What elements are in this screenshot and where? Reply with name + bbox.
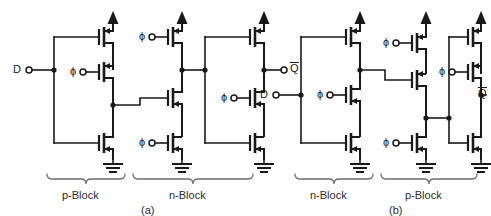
p2b-drain	[417, 49, 426, 74]
label-phi-a-4: ϕ	[221, 92, 227, 102]
p1b-drain	[351, 43, 360, 70]
p2a-drain	[104, 78, 113, 105]
phi-terminal-n3b	[393, 140, 399, 146]
n1b-source	[351, 101, 360, 137]
phi-terminal-p2a	[80, 69, 86, 75]
brace-nblock-a	[133, 174, 253, 184]
qbar-overline-a: Q	[290, 62, 299, 74]
p3b-drain	[417, 86, 426, 118]
figure-container: D Q ϕ ϕ ϕ ϕ p-Block n-Block (a) D Q ϕ ϕ …	[0, 0, 491, 216]
qbar-terminal-a	[281, 67, 287, 73]
n1b-drain	[351, 70, 360, 89]
p4a-drain	[255, 43, 264, 70]
wire-x-to-n-stack-a	[113, 98, 168, 105]
schematic-svg	[0, 0, 491, 216]
phi-terminal-p3a	[149, 34, 155, 40]
caption-panel-b: (b)	[389, 205, 402, 215]
n4a-source	[255, 104, 264, 137]
brace-pblock-b	[381, 174, 477, 184]
label-block-left-b: n-Block	[310, 190, 347, 200]
panel-b-circuit	[273, 11, 491, 184]
label-phi-b-2: ϕ	[383, 37, 389, 47]
brace-nblock-b	[295, 174, 373, 184]
phi-terminal-n1b	[327, 92, 333, 98]
n5b-drain	[473, 95, 481, 137]
label-phi-b-1: ϕ	[317, 89, 323, 99]
label-input-d-b: D	[260, 89, 268, 99]
panel-a-circuit	[26, 11, 287, 184]
n1a-drain	[104, 105, 113, 137]
n3b-drain	[417, 118, 426, 137]
label-phi-a-1: ϕ	[70, 66, 76, 76]
d-terminal-a	[26, 67, 32, 73]
label-block-left-a: p-Block	[62, 190, 99, 200]
d-terminal-b	[273, 92, 279, 98]
label-output-qbar-a: Q	[290, 62, 299, 74]
label-block-right-a: n-Block	[169, 190, 206, 200]
label-output-qbar-b: Q	[478, 87, 487, 99]
n2a-drain	[173, 70, 182, 92]
phi-terminal-n4a	[231, 95, 237, 101]
label-block-right-b: p-Block	[405, 190, 442, 200]
label-phi-a-3: ϕ	[139, 137, 145, 147]
label-phi-a-2: ϕ	[139, 31, 145, 41]
qbar-overline-b: Q	[478, 87, 487, 99]
phi-terminal-p2b	[393, 40, 399, 46]
label-phi-b-3: ϕ	[383, 137, 389, 147]
p3a-drain	[173, 43, 182, 70]
brace-pblock-a	[47, 174, 125, 184]
phi-terminal-p5b	[449, 69, 455, 75]
phi-terminal-n3a	[149, 140, 155, 146]
label-phi-b-4: ϕ	[439, 66, 445, 76]
label-input-d-a: D	[13, 64, 21, 74]
n2a-source	[173, 104, 182, 137]
wire-x-to-p-stack-b	[360, 70, 412, 80]
caption-panel-a: (a)	[141, 205, 154, 215]
